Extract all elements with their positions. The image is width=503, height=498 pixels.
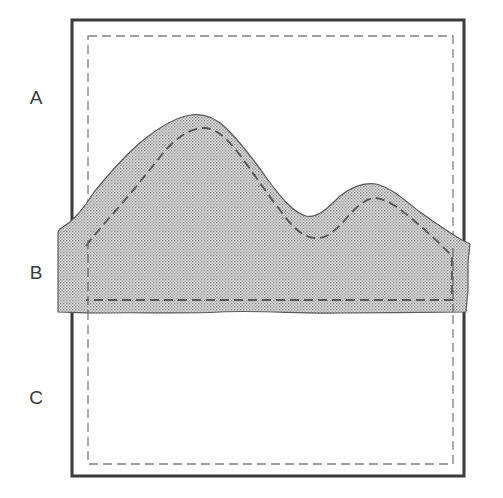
shaded-region — [58, 115, 470, 314]
band-label-b: B — [26, 263, 46, 282]
band-label-a: A — [26, 88, 46, 107]
band-label-c: C — [26, 388, 46, 407]
diagram-canvas — [0, 0, 503, 498]
